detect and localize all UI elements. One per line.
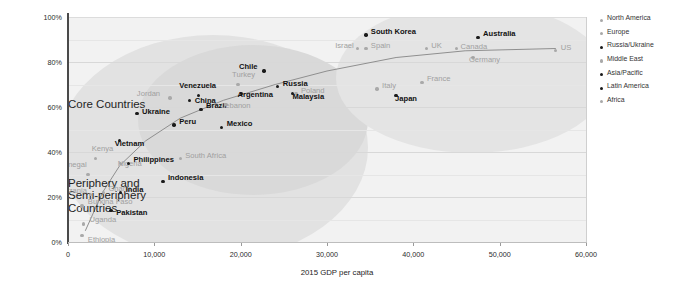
legend-label: Asia/Pacific [607,69,643,76]
data-point[interactable] [199,108,202,111]
legend-label: Middle East [607,55,643,62]
point-label: Peru [179,118,196,126]
legend-dot-icon [600,100,603,103]
point-label: Senegal [68,161,87,169]
data-point[interactable] [82,222,85,225]
point-label: Canada [461,43,488,51]
x-tick-mark [154,243,155,246]
x-tick-mark [586,243,587,246]
legend: North AmericaEuropeRussia/UkraineMiddle … [600,14,674,109]
data-point[interactable] [262,69,265,72]
point-label: Spain [371,42,390,50]
legend-dot-icon [600,59,603,62]
legend-dot-icon [600,32,603,35]
point-label: Burkina Faso [88,198,133,206]
y-tick-label: 20% [28,193,62,202]
data-point[interactable] [80,234,83,237]
x-tick-label: 10,000 [124,250,184,259]
legend-item-russia-ukraine[interactable]: Russia/Ukraine [600,41,674,55]
point-label: Mexico [227,120,253,128]
data-point[interactable] [86,173,89,176]
scatter-chart: Periphery andSemi-peripheryCountriesCore… [0,0,674,287]
legend-item-middle-east[interactable]: Middle East [600,55,674,69]
point-label: UK [431,42,442,50]
y-tick-label: 40% [28,148,62,157]
legend-label: Latin America [607,82,649,89]
legend-item-africa[interactable]: Africa [600,96,674,110]
data-point[interactable] [168,96,171,99]
legend-dot-icon [600,87,603,90]
x-tick-mark [327,243,328,246]
point-label: Uganda [90,216,117,224]
x-tick-mark [241,243,242,246]
legend-item-north-america[interactable]: North America [600,14,674,28]
point-label: Chile [239,63,258,71]
point-label: China [195,97,216,105]
point-label: Jordan [137,90,160,98]
legend-dot-icon [600,19,603,22]
data-point[interactable] [356,47,359,50]
data-point[interactable] [109,209,112,212]
point-label: Russia [283,80,308,88]
legend-label: Europe [607,28,629,35]
point-label: India [126,186,144,194]
y-tick-label: 80% [28,58,62,67]
x-tick-label: 0 [38,250,98,259]
legend-item-asia-pacific[interactable]: Asia/Pacific [600,68,674,82]
plot-border-top [68,17,587,18]
point-label: US [561,44,572,52]
point-label: Lebanon [221,102,251,110]
x-tick-mark [500,243,501,246]
x-tick-label: 60,000 [556,250,616,259]
point-label: Italy [382,82,396,90]
point-label: Ukraine [142,108,170,116]
data-point[interactable] [364,47,367,50]
point-label: Indonesia [168,174,203,182]
point-label: Turkey [232,71,255,79]
plot-area: Periphery andSemi-peripheryCountriesCore… [68,17,586,242]
point-label: Australia [483,30,516,38]
data-point[interactable] [420,81,423,84]
legend-item-latin-america[interactable]: Latin America [600,82,674,96]
annotation-line: Core Countries [68,98,145,111]
point-label: France [427,75,451,83]
x-tick-label: 30,000 [297,250,357,259]
data-point[interactable] [236,83,239,86]
point-label: South Africa [185,152,226,160]
data-point[interactable] [364,33,367,36]
legend-label: North America [607,14,651,21]
point-label: Venezuela [179,82,216,90]
point-label: Israel [335,42,354,50]
data-point[interactable] [161,180,164,183]
point-label: Pakistan [116,209,147,217]
y-tick-label: 100% [28,13,62,22]
plot-border-right [586,17,587,243]
data-point[interactable] [172,123,175,126]
y-tick-label: 0% [28,238,62,247]
data-point[interactable] [80,204,83,207]
legend-item-europe[interactable]: Europe [600,28,674,42]
x-tick-label: 50,000 [470,250,530,259]
point-label: Tanzania [68,187,87,195]
point-label: South Korea [371,28,416,36]
data-point[interactable] [476,36,479,39]
point-label: Japan [395,95,417,103]
x-axis-title: 2015 GDP per capita [0,268,674,277]
point-label: Vietnam [115,140,144,148]
legend-dot-icon [600,73,603,76]
legend-label: Africa [607,96,625,103]
x-tick-label: 20,000 [211,250,271,259]
legend-label: Russia/Ukraine [607,41,654,48]
point-label: Philippines [133,156,174,164]
y-tick-label: 60% [28,103,62,112]
point-label: Malaysia [292,93,324,101]
x-tick-label: 40,000 [383,250,443,259]
point-label: Germany [469,56,500,64]
annotation-2: Core Countries [68,98,145,111]
point-label: Kenya [92,145,114,153]
y-axis-line [67,13,69,244]
legend-dot-icon [600,46,603,49]
data-point[interactable] [127,162,130,165]
point-label: Argentina [238,91,273,99]
data-point[interactable] [375,87,378,90]
